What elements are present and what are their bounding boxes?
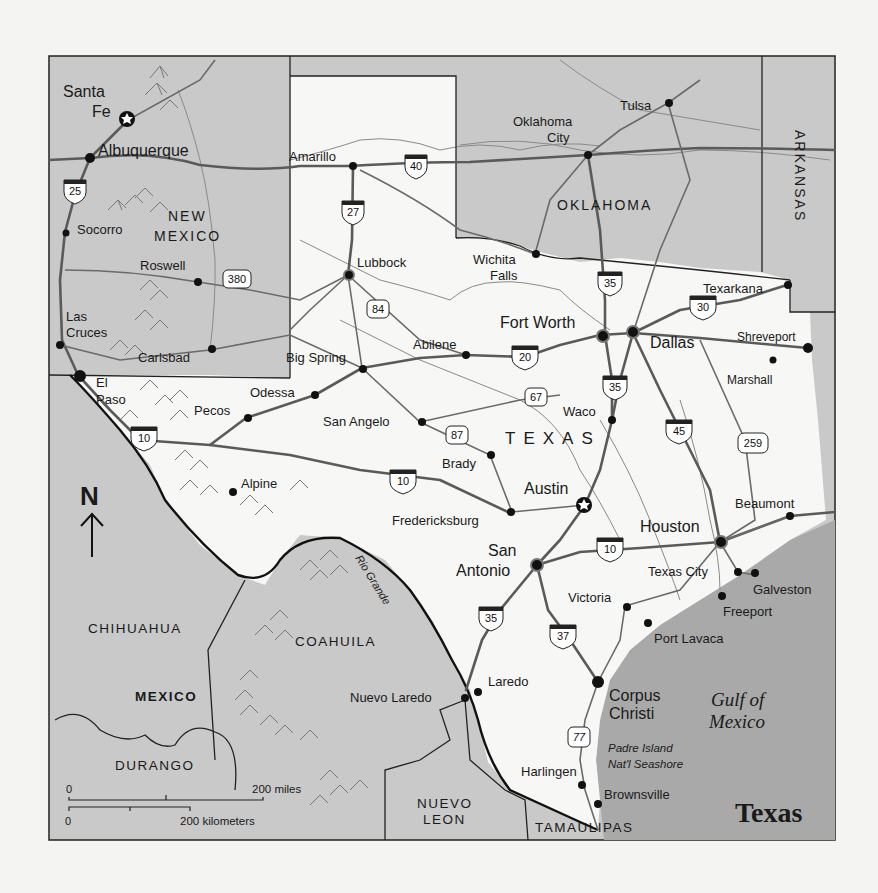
nuevo-leon-label-1: NUEVO — [417, 796, 473, 811]
arkansas-label: ARKANSAS — [792, 130, 808, 222]
wichita-falls-label-2: Falls — [490, 268, 518, 283]
i30-shield-label: 30 — [697, 301, 709, 313]
gulf-label-2: Mexico — [708, 711, 765, 732]
harlingen-label: Harlingen — [521, 764, 577, 779]
corpus-christi-label-1: Corpus — [609, 687, 661, 704]
victoria-label: Victoria — [568, 590, 612, 605]
us77-shield-label: 77 — [573, 731, 586, 743]
austin-label: Austin — [524, 480, 568, 497]
scale-miles-label: 200 miles — [252, 783, 301, 795]
scale-miles-zero: 0 — [66, 783, 72, 795]
corpus-christi-label-2: Christi — [609, 705, 654, 722]
us84-shield-label: 84 — [372, 303, 384, 315]
texas-label: TEXAS — [505, 429, 601, 448]
waco-label: Waco — [563, 404, 596, 419]
tulsa-label: Tulsa — [620, 98, 652, 113]
i10-east-shield-label: 10 — [604, 543, 616, 555]
beaumont-label: Beaumont — [735, 496, 795, 511]
abilene-label: Abilene — [413, 337, 456, 352]
i40-shield-label: 40 — [410, 160, 422, 172]
texarkana-label: Texarkana — [703, 281, 764, 296]
i10-central-shield-label: 10 — [397, 475, 409, 487]
capital-star-santa-fe — [119, 111, 135, 127]
scale-km-zero: 0 — [65, 815, 71, 827]
durango-label: DURANGO — [115, 758, 195, 773]
nuevo-laredo-label: Nuevo Laredo — [350, 690, 432, 705]
oklahoma-city-label-2: City — [547, 130, 570, 145]
socorro-label: Socorro — [77, 222, 123, 237]
carlsbad-label: Carlsbad — [138, 350, 190, 365]
texas-city-label: Texas City — [648, 564, 708, 579]
santa-fe-label-1: Santa — [63, 83, 105, 100]
i35-waco-shield-label: 35 — [609, 381, 621, 393]
alpine-label: Alpine — [241, 476, 277, 491]
santa-fe-label-2: Fe — [92, 103, 111, 120]
marshall-label: Marshall — [727, 373, 772, 387]
brady-label: Brady — [442, 456, 476, 471]
oklahoma-city-label-1: Oklahoma — [513, 114, 573, 129]
wichita-falls-label-1: Wichita — [473, 252, 516, 267]
odessa-label: Odessa — [250, 385, 296, 400]
padre-island-label-1: Padre Island — [608, 742, 673, 754]
port-lavaca-label: Port Lavaca — [654, 631, 724, 646]
scale-km-label: 200 kilometers — [180, 815, 255, 827]
new-mexico-label-2: MEXICO — [154, 228, 221, 244]
i37-shield-label: 37 — [557, 630, 569, 642]
lubbock-label: Lubbock — [357, 255, 407, 270]
i20-shield-label: 20 — [519, 351, 531, 363]
map-title: Texas — [735, 797, 803, 828]
big-spring-label: Big Spring — [286, 350, 346, 365]
i27-shield-label: 27 — [347, 206, 359, 218]
pecos-label: Pecos — [194, 403, 231, 418]
new-mexico-label-1: NEW — [168, 208, 207, 224]
albuquerque-label: Albuquerque — [98, 142, 189, 159]
i25-shield-label: 25 — [69, 185, 81, 197]
us380-shield-label: 380 — [228, 273, 246, 285]
mexico-label: MEXICO — [135, 689, 197, 704]
padre-island-label-2: Nat'l Seashore — [608, 758, 683, 770]
gulf-label-1: Gulf of — [711, 689, 767, 710]
us87-shield-label: 87 — [451, 429, 463, 441]
san-antonio-label-2: Antonio — [456, 562, 510, 579]
las-cruces-label-2: Cruces — [66, 325, 108, 340]
capital-star-austin — [576, 497, 592, 513]
fredericksburg-label: Fredericksburg — [392, 513, 479, 528]
freeport-label: Freeport — [723, 604, 773, 619]
amarillo-label: Amarillo — [289, 149, 336, 164]
el-paso-label-2: Paso — [96, 392, 126, 407]
san-angelo-label: San Angelo — [323, 414, 390, 429]
chihuahua-label: CHIHUAHUA — [88, 621, 182, 636]
el-paso-label-1: El — [96, 375, 108, 390]
us67-shield-label: 67 — [530, 391, 542, 403]
oklahoma-label: OKLAHOMA — [557, 197, 652, 213]
roswell-label: Roswell — [140, 258, 186, 273]
las-cruces-label-1: Las — [66, 309, 87, 324]
i10-west-shield-label: 10 — [138, 432, 150, 444]
i45-shield-label: 45 — [673, 425, 685, 437]
houston-label: Houston — [640, 518, 700, 535]
galveston-label: Galveston — [753, 582, 812, 597]
i35-north-shield-label: 35 — [604, 277, 616, 289]
nuevo-leon-label-2: LEON — [423, 812, 466, 827]
fort-worth-label: Fort Worth — [500, 314, 575, 331]
i35-south-shield-label: 35 — [485, 612, 497, 624]
us259-shield-label: 259 — [744, 437, 762, 449]
texas-map: 25 40 27 380 84 20 35 35 30 45 259 67 87… — [0, 0, 878, 893]
shreveport-label: Shreveport — [737, 330, 796, 344]
tamaulipas-label: TAMAULIPAS — [535, 820, 634, 835]
coahuila-label: COAHUILA — [295, 634, 376, 649]
north-label: N — [80, 481, 99, 511]
san-antonio-label-1: San — [488, 542, 516, 559]
brownsville-label: Brownsville — [604, 787, 670, 802]
laredo-label: Laredo — [488, 674, 528, 689]
dallas-label: Dallas — [650, 334, 694, 351]
